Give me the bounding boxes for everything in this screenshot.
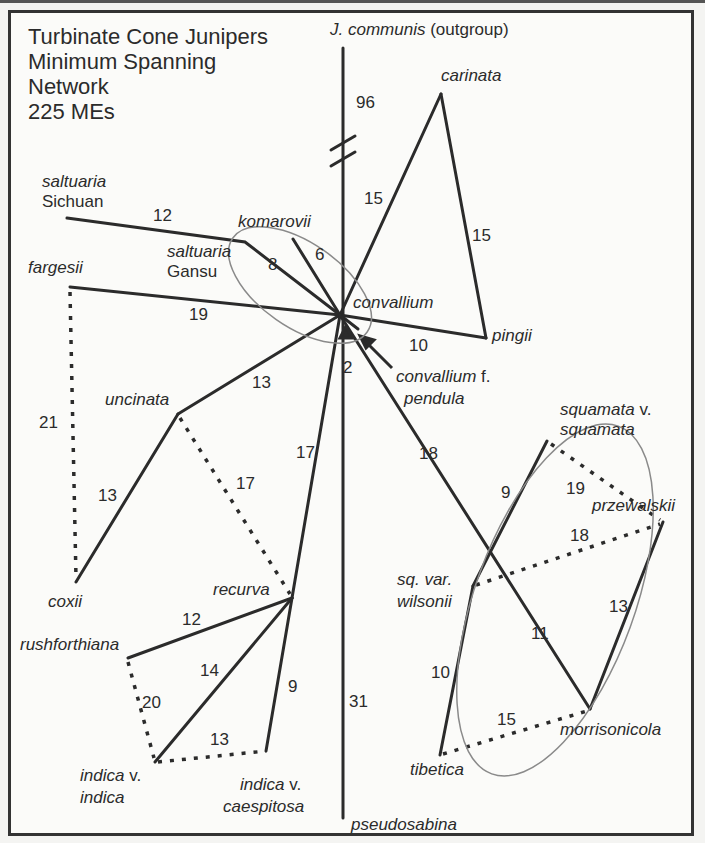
label-convallium: convallium: [353, 293, 433, 313]
label-rushforthiana: rushforthiana: [20, 635, 119, 655]
edge-value-indica-caespitosa: 13: [210, 730, 229, 750]
edge-value-uncinata: 13: [252, 373, 271, 393]
title-line-4: 225 MEs: [28, 99, 268, 124]
label-morrisonicola: morrisonicola: [560, 720, 661, 740]
edge-carinata-pingii: [441, 94, 486, 338]
label-squamata-2: squamata: [560, 420, 635, 440]
edge-value-caespitosa: 9: [288, 677, 297, 697]
edge-value-rushforthiana: 12: [182, 610, 201, 630]
pendula-genus: convallium: [396, 367, 476, 386]
label-saltuaria-sichuan-2: Sichuan: [42, 192, 103, 212]
caespitosa-var: v.: [284, 775, 301, 794]
label-saltuaria-sichuan-1: saltuaria: [42, 172, 106, 192]
communis-name: J. communis: [330, 20, 425, 39]
edge-value-fargesii: 19: [189, 305, 208, 325]
squamata-group-ellipse: [417, 399, 694, 801]
label-recurva: recurva: [213, 580, 270, 600]
label-wilsonii-2: wilsonii: [397, 592, 452, 612]
edge-value-przewalskii-morrisonicola: 13: [609, 597, 628, 617]
edge-recurva-caespitosa: [266, 598, 292, 751]
edge-value-komarovii: 6: [315, 245, 324, 265]
label-convallium-pendula-1: convallium f.: [396, 367, 490, 387]
edge-value-squamata: 9: [501, 483, 510, 503]
edge-value-uncinata-recurva: 17: [236, 474, 255, 494]
label-convallium-pendula-2: pendula: [404, 389, 465, 409]
label-przewalskii: przewalskii: [592, 496, 675, 516]
label-komarovii: komarovii: [238, 212, 311, 232]
label-pseudosabina: pseudosabina: [351, 815, 457, 835]
edge-value-communis: 96: [356, 93, 375, 113]
edge-value-saltuaria-gansu: 8: [268, 255, 277, 275]
label-squamata-1: squamata v.: [560, 400, 651, 420]
edge-convallium-uncinata: [178, 315, 340, 414]
label-coxii: coxii: [48, 592, 82, 612]
edge-uncinata-recurva-dashed: [180, 418, 290, 594]
edge-value-squamata-przewalskii: 19: [566, 479, 585, 499]
label-communis: J. communis (outgroup): [330, 20, 509, 40]
edge-convallium-carinata: [340, 94, 441, 315]
edge-value-pingii: 10: [409, 336, 428, 356]
edge-value-carinata-left: 15: [364, 189, 383, 209]
edge-wilsonii-przewalskii-dashed: [476, 524, 660, 585]
label-wilsonii-1: sq. var.: [397, 570, 452, 590]
squamata-var: v.: [635, 400, 652, 419]
figure-title: Turbinate Cone Junipers Minimum Spanning…: [28, 24, 268, 124]
edge-indica-caespitosa-dashed: [158, 751, 266, 762]
edge-fargesii-coxii-dashed: [70, 292, 76, 578]
indica-name: indica: [80, 766, 124, 785]
caespitosa-genus: indica: [240, 775, 284, 794]
edge-convallium-pingii: [340, 315, 486, 338]
label-indica-indica-1: indica v.: [80, 766, 141, 786]
edge-value-carinata-right: 15: [472, 226, 491, 246]
pendula-forma: f.: [476, 367, 490, 386]
label-fargesii: fargesii: [28, 258, 83, 278]
edge-value-uncinata-coxii: 13: [98, 486, 117, 506]
edge-value-tibetica-morrisonicola: 15: [497, 710, 516, 730]
edge-value-rushforthiana-indica: 20: [142, 693, 161, 713]
title-line-2: Minimum Spanning: [28, 49, 268, 74]
label-indica-indica-2: indica: [80, 788, 124, 808]
title-line-1: Turbinate Cone Junipers: [28, 24, 268, 49]
edge-uncinata-coxii: [76, 414, 178, 582]
label-carinata: carinata: [441, 66, 501, 86]
edge-value-fargesii-coxii: 21: [39, 413, 58, 433]
indica-var: v.: [124, 766, 141, 785]
edge-value-tibetica: 10: [431, 663, 450, 683]
communis-suffix: (outgroup): [425, 20, 508, 39]
label-pingii: pingii: [492, 326, 532, 346]
label-indica-caespitosa-2: caespitosa: [223, 797, 304, 817]
label-indica-caespitosa-1: indica v.: [240, 775, 301, 795]
edge-value-wilsonii: 18: [419, 444, 438, 464]
label-saltuaria-gansu-2: Gansu: [167, 262, 217, 282]
title-line-3: Network: [28, 74, 268, 99]
edge-value-recurva-indica: 14: [200, 661, 219, 681]
edge-value-recurva: 17: [296, 443, 315, 463]
label-uncinata: uncinata: [105, 390, 169, 410]
edge-value-wilsonii-morrisonicola: 11: [531, 624, 549, 644]
edge-value-saltuaria-sichuan: 12: [153, 206, 172, 226]
label-saltuaria-gansu-1: saltuaria: [167, 242, 231, 262]
squamata-name: squamata: [560, 400, 635, 419]
edge-value-pendula: 2: [343, 358, 352, 378]
edge-value-wilsonii-przewalskii: 18: [570, 526, 589, 546]
edge-value-pseudosabina: 31: [349, 692, 368, 712]
label-tibetica: tibetica: [410, 760, 464, 780]
